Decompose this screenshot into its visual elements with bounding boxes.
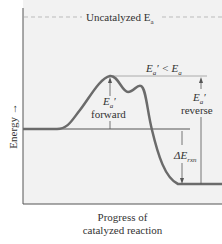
reverse-arrow-head <box>199 77 203 83</box>
x-axis-label-line2: catalyzed reaction <box>23 224 222 237</box>
forward-label: forward <box>91 108 126 120</box>
x-axis-label-line1: Progress of <box>23 211 222 224</box>
uncatalyzed-label: Uncatalyzed Ea <box>86 11 154 28</box>
comparison-label: Ea′ < Ea <box>146 62 182 79</box>
forward-arrow-head <box>108 77 112 83</box>
energy-diagram <box>0 0 222 244</box>
y-axis-label: Energy → <box>7 103 19 148</box>
delta-e-label: ΔErxn <box>174 149 197 166</box>
reverse-label: reverse <box>181 104 213 116</box>
